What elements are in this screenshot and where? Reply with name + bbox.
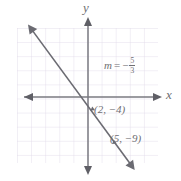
arrow-down-icon xyxy=(84,166,92,175)
slope-sign: − xyxy=(122,60,128,71)
graph-figure: y x m = − 5 3 (2, −4) (5, −9) xyxy=(0,0,181,181)
slope-equals: = xyxy=(114,60,120,71)
coordinate-plane-svg xyxy=(0,0,181,181)
slope-denominator: 3 xyxy=(130,67,136,75)
axis-label-x: x xyxy=(166,88,172,101)
slope-annotation: m = − 5 3 xyxy=(104,57,135,75)
arrow-up-icon xyxy=(84,17,92,26)
slope-variable: m xyxy=(104,60,112,71)
slope-numerator: 5 xyxy=(130,57,136,65)
slope-fraction: 5 3 xyxy=(129,57,135,75)
point-label-a: (2, −4) xyxy=(94,104,125,115)
point-label-b: (5, −9) xyxy=(110,133,141,144)
axis-label-y: y xyxy=(83,1,89,14)
